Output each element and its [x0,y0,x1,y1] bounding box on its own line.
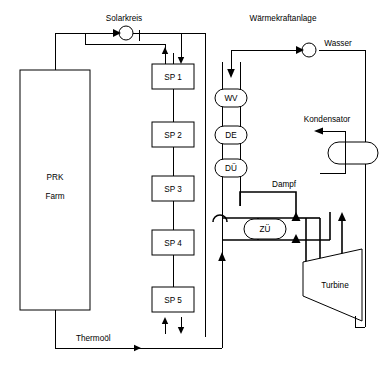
feedwater-pump-icon [296,43,316,57]
storage-unit-sp5: SP 5 [152,287,194,312]
label-kondensator: Kondensator [304,115,351,124]
turbine: Turbine [303,249,362,321]
storage-unit-sp4-label: SP 4 [164,239,182,248]
condenser [314,128,378,174]
storage-unit-sp3: SP 3 [152,176,194,201]
storage-unit-sp5-label: SP 5 [164,296,182,305]
heat-exchanger-zu-label: ZÜ [260,224,271,234]
thermal-oil-return-line [55,310,222,351]
heat-exchanger-de-label: DE [225,131,237,140]
prk-farm-label-line1: PRK [47,173,64,182]
storage-unit-sp3-label: SP 3 [164,185,182,194]
label-dampf: Dampf [272,180,297,189]
storage-column: SP 1 SP 2 SP 3 SP 4 SP 5 [152,47,194,334]
storage-unit-sp2: SP 2 [152,122,194,147]
solar-loop-pump-icon [113,26,139,41]
storage-unit-sp1: SP 1 [152,64,194,89]
heat-exchanger-wv-label: WV [224,94,238,103]
turbine-label: Turbine [321,281,349,290]
live-steam-line [240,192,320,221]
thermal-oil-flow-arrow [218,252,226,300]
label-waermekraftanlage: Wärmekraftanlage [250,14,317,23]
prk-farm-label-line2: Farm [45,192,64,201]
heat-exchanger-de: DE [215,126,247,144]
storage-unit-sp4: SP 4 [152,230,194,255]
label-wasser: Wasser [324,39,352,48]
storage-unit-sp1-label: SP 1 [164,73,182,82]
prk-farm-collector-field: PRK Farm [20,70,90,310]
schematic-canvas: Solarkreis Wärmekraftanlage Wasser Konde… [0,0,388,373]
heat-exchanger-du: DÜ [215,159,247,177]
heat-exchanger-wv: WV [215,89,247,107]
storage-unit-sp2-label: SP 2 [164,131,182,140]
process-flow-diagram: Solarkreis Wärmekraftanlage Wasser Konde… [0,0,388,373]
heat-exchanger-du-label: DÜ [225,163,237,173]
label-thermooel: Thermoöl [76,334,111,343]
label-solarkreis: Solarkreis [106,14,142,23]
heat-exchanger-zu: ZÜ [244,219,286,239]
